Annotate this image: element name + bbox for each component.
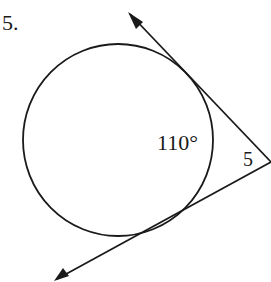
upper-tangent-line [130,14,271,162]
diagram: 5. 110° 5 [0,0,271,282]
angle-label: 5 [243,148,253,170]
lower-tangent-line [57,162,271,279]
problem-number: 5. [2,10,19,35]
lower-arrow-icon [54,268,69,281]
arc-measure-label: 110° [157,130,198,155]
